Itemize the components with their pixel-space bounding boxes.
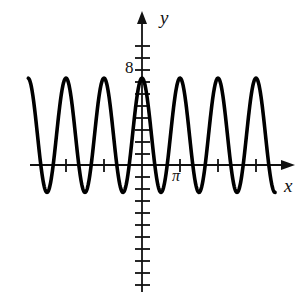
y-tick-label-8: 8 <box>125 59 134 76</box>
x-axis-label: x <box>284 176 292 195</box>
math-function-graph-figure: y x 8 π <box>0 0 307 302</box>
function-curve <box>28 78 275 192</box>
coordinate-plane-svg <box>0 0 307 302</box>
x-tick-label-pi: π <box>172 168 180 184</box>
y-axis-label: y <box>160 8 168 27</box>
